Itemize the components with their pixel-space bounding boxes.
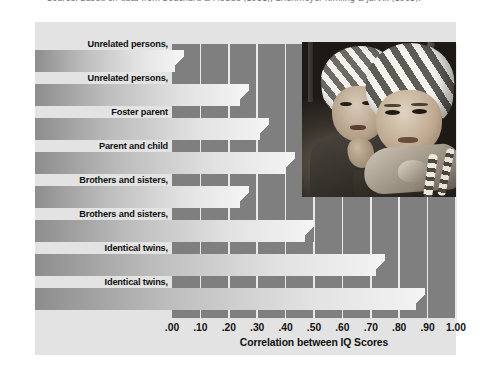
- bar-8: [35, 288, 416, 310]
- x-axis-title: Correlation between IQ Scores: [172, 337, 456, 348]
- bar-1: [35, 50, 175, 72]
- source-credit-note: Source: Based on data from Bouchard & Mc…: [47, 0, 467, 3]
- bar-tip-3: [260, 118, 269, 140]
- category-label-line: Identical twins,: [35, 277, 168, 288]
- bar-5: [35, 186, 240, 208]
- front-child-brow-left: [384, 104, 401, 107]
- bar-tip-7: [376, 254, 385, 276]
- category-label-line: Parent and child: [35, 141, 168, 152]
- front-child-mouth: [398, 137, 418, 143]
- category-label-line: Unrelated persons,: [35, 73, 168, 84]
- bar-tip-8: [416, 288, 425, 310]
- tick-label-.90: .90: [413, 322, 443, 333]
- scarf-knot: [398, 160, 428, 182]
- tick-label-.60: .60: [327, 322, 357, 333]
- bar-tip-6: [305, 220, 314, 242]
- tick-label-.70: .70: [356, 322, 386, 333]
- x-axis-tick-labels: .00.10.20.30.40.50.60.70.80.901.00: [172, 322, 472, 338]
- gridline-.30: [256, 44, 258, 318]
- tick-label-.00: .00: [157, 322, 187, 333]
- tick-label-.20: .20: [214, 322, 244, 333]
- tick-label-.50: .50: [299, 322, 329, 333]
- category-label-line: Foster parent: [35, 107, 168, 118]
- figure-panel: Unrelated persons,reared apartUnrelated …: [35, 22, 456, 355]
- tick-label-1.00: 1.00: [441, 322, 471, 333]
- bar-3: [35, 118, 260, 140]
- bar-4: [35, 152, 286, 174]
- category-label-line: Identical twins,: [35, 243, 168, 254]
- category-label-line: Brothers and sisters,: [35, 209, 168, 220]
- bar-tip-2: [240, 84, 249, 106]
- front-child-brow-right: [411, 103, 428, 106]
- front-child-eye-right: [412, 109, 427, 114]
- tick-label-.40: .40: [271, 322, 301, 333]
- back-child-eye-left: [340, 102, 352, 106]
- bar-tip-1: [175, 50, 184, 72]
- gridline-.40: [285, 44, 287, 318]
- front-child-eye-left: [385, 110, 400, 115]
- bar-tip-5: [240, 186, 249, 208]
- photo-pole-left: [308, 42, 313, 102]
- twins-photo-inset: [302, 42, 456, 197]
- tick-label-.10: .10: [185, 322, 215, 333]
- back-child-mouth: [350, 125, 366, 130]
- tick-label-.30: .30: [242, 322, 272, 333]
- bar-tip-4: [286, 152, 295, 174]
- bar-6: [35, 220, 305, 242]
- category-label-line: Brothers and sisters,: [35, 175, 168, 186]
- tick-label-.80: .80: [384, 322, 414, 333]
- bar-2: [35, 84, 240, 106]
- bar-7: [35, 254, 376, 276]
- category-label-line: Unrelated persons,: [35, 39, 168, 50]
